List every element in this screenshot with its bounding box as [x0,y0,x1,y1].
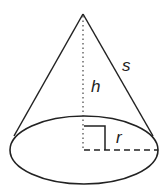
cone-diagram: h s r [0,0,167,194]
radius-label: r [116,128,123,147]
slant-right [83,14,153,136]
right-angle-marker [84,126,105,150]
slant-left [14,14,83,136]
slant-label: s [122,56,131,75]
height-label: h [91,77,100,96]
